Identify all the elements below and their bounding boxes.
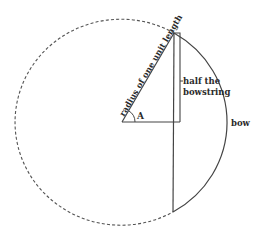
diagram-canvas: A radius of one unit length half the bow… <box>0 0 261 234</box>
half-bowstring-label-line1: half the <box>183 76 221 86</box>
half-bowstring-bracket <box>174 33 180 122</box>
bow-bowstring-diagram: A radius of one unit length half the bow… <box>0 0 261 234</box>
bow-label: bow <box>231 118 251 128</box>
half-bowstring-label-line2: bowstring <box>183 87 231 97</box>
angle-arc <box>129 111 135 122</box>
angle-label: A <box>136 111 145 121</box>
bow-arc <box>173 33 227 212</box>
